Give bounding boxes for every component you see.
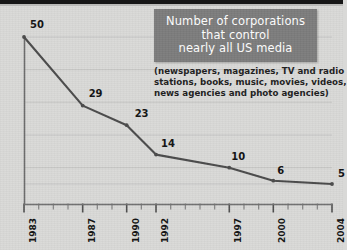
x-axis-year-label: 1997 — [233, 218, 243, 243]
x-axis-year-label: 2004 — [336, 218, 346, 243]
data-point-label: 29 — [89, 88, 103, 99]
data-point-label: 10 — [231, 151, 245, 162]
top-border-highlight — [0, 4, 343, 6]
data-point-label: 23 — [135, 108, 149, 119]
data-point — [271, 179, 275, 183]
x-axis-year-label: 1992 — [160, 218, 170, 243]
data-point — [81, 104, 85, 108]
x-axis-year-label: 1983 — [28, 218, 38, 243]
title-line-2: that control — [201, 29, 269, 43]
subtitle-line-3: news agencies and photo agencies) — [154, 88, 334, 99]
data-point-label: 6 — [277, 165, 284, 176]
data-point-label: 5 — [338, 168, 345, 179]
subtitle-line-2: stations, books, music, movies, videos, — [154, 77, 334, 88]
chart-title-box: Number of corporations that control near… — [154, 9, 317, 62]
data-point — [227, 166, 231, 170]
subtitle-line-1: (newspapers, magazines, TV and radio — [154, 66, 334, 77]
title-line-1: Number of corporations — [166, 15, 305, 29]
data-point-label: 14 — [161, 138, 175, 149]
data-point — [154, 153, 158, 157]
x-axis-year-label: 1990 — [131, 218, 141, 243]
data-point — [22, 35, 26, 39]
title-line-3: nearly all US media — [179, 42, 293, 56]
x-axis-year-label: 1987 — [87, 218, 97, 243]
chart-subtitle: (newspapers, magazines, TV and radio sta… — [154, 66, 334, 100]
data-point-label: 50 — [30, 19, 44, 30]
x-axis-year-label: 2000 — [277, 218, 287, 243]
data-point — [125, 123, 129, 127]
data-point — [330, 182, 334, 186]
